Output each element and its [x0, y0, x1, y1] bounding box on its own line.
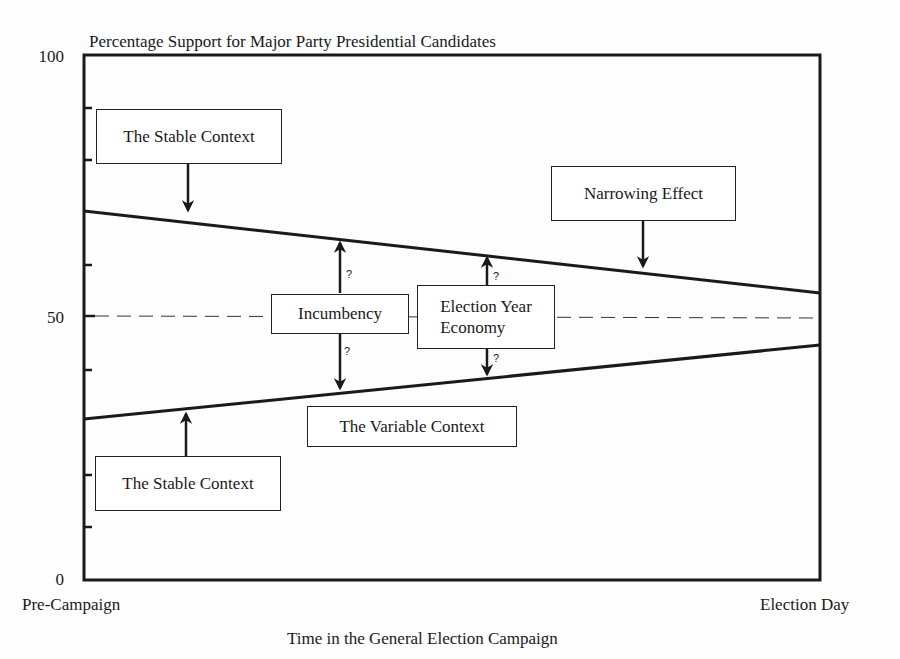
incumbency-up-question-mark: ? — [346, 268, 352, 280]
y-tick-50: 50 — [24, 308, 64, 328]
narrowing-effect-label: Narrowing Effect — [584, 183, 703, 204]
variable-context-label: The Variable Context — [339, 416, 484, 437]
upper-bound-line — [84, 211, 820, 293]
y-axis-ticks — [84, 108, 95, 527]
incumbency-label: Incumbency — [298, 303, 382, 324]
economy-label-line1: Election Year — [440, 296, 532, 317]
economy-up-question-mark: ? — [493, 270, 499, 282]
economy-down-question-mark: ? — [493, 352, 499, 364]
economy-label-line2: Economy — [440, 317, 532, 338]
election-year-economy-label: Election Year Economy — [440, 296, 532, 339]
stable-context-bottom-box: The Stable Context — [95, 456, 281, 511]
variable-context-box: The Variable Context — [307, 406, 517, 447]
x-axis-title: Time in the General Election Campaign — [287, 630, 558, 647]
election-year-economy-box: Election Year Economy — [417, 285, 555, 349]
stable-context-top-label: The Stable Context — [123, 126, 254, 147]
x-tick-election-day: Election Day — [760, 596, 849, 613]
stable-context-bottom-label: The Stable Context — [122, 473, 253, 494]
incumbency-down-question-mark: ? — [344, 345, 350, 357]
incumbency-box: Incumbency — [271, 294, 409, 334]
stable-context-top-box: The Stable Context — [96, 109, 282, 164]
narrowing-effect-box: Narrowing Effect — [551, 166, 736, 221]
y-tick-0: 0 — [24, 570, 64, 590]
chart-title: Percentage Support for Major Party Presi… — [89, 33, 496, 50]
x-tick-pre-campaign: Pre-Campaign — [22, 596, 120, 613]
y-tick-100: 100 — [24, 47, 64, 67]
